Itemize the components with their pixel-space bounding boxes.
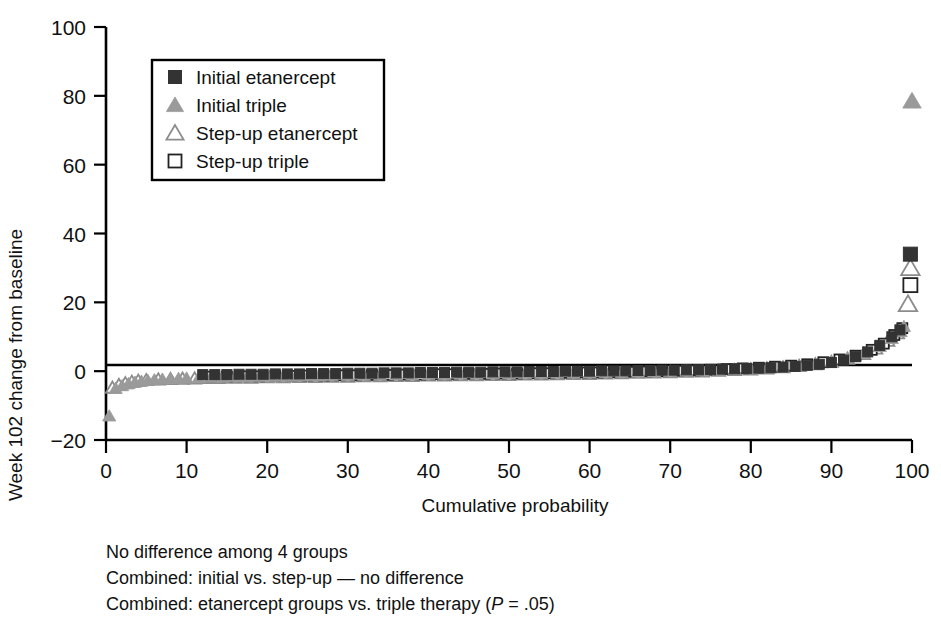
y-axis-title: Week 102 change from baseline: [5, 229, 26, 501]
legend-item-label: Initial etanercept: [196, 67, 336, 88]
marker-filled-square: [875, 340, 885, 350]
x-tick-label: 30: [336, 459, 359, 482]
marker-filled-square: [573, 366, 583, 376]
marker-filled-square: [343, 368, 353, 378]
marker-filled-square: [742, 363, 752, 373]
marker-filled-square: [730, 364, 740, 374]
marker-filled-square: [427, 368, 437, 378]
note-line-3: Combined: etanercept groups vs. triple t…: [106, 594, 555, 614]
marker-filled-square: [802, 360, 812, 370]
marker-filled-square: [258, 369, 268, 379]
y-tick-label: 100: [51, 16, 86, 39]
marker-filled-square: [826, 358, 836, 368]
x-tick-label: 0: [100, 459, 112, 482]
marker-filled-square: [524, 367, 534, 377]
marker-filled-square: [597, 366, 607, 376]
marker-filled-square: [391, 368, 401, 378]
legend-item-label: Step-up triple: [196, 151, 309, 172]
chart-canvas: Week 102 change from baseline −200204060…: [0, 0, 941, 622]
marker-filled-square: [585, 366, 595, 376]
y-tick-label: 60: [63, 154, 86, 177]
y-axis-ticks: −20020406080100: [50, 16, 106, 452]
notes-block: No difference among 4 groups Combined: i…: [106, 542, 555, 614]
marker-filled-square: [270, 369, 280, 379]
marker-filled-square: [814, 359, 824, 369]
marker-filled-square: [512, 367, 522, 377]
y-tick-label: 20: [63, 291, 86, 314]
marker-filled-square: [657, 365, 667, 375]
marker-filled-square: [693, 365, 703, 375]
marker-filled-square: [246, 369, 256, 379]
marker-filled-square: [645, 365, 655, 375]
marker-filled-square: [718, 364, 728, 374]
marker-filled-square: [367, 368, 377, 378]
marker-filled-square: [560, 366, 570, 376]
marker-filled-square: [355, 368, 365, 378]
x-axis-ticks: 0102030405060708090100: [100, 440, 929, 482]
marker-filled-square: [234, 369, 244, 379]
note-line-3-italic: P: [491, 594, 503, 614]
marker-filled-square: [609, 366, 619, 376]
marker-filled-square: [863, 347, 873, 357]
marker-filled-square: [903, 247, 917, 261]
marker-filled-square: [851, 352, 861, 362]
marker-open-square: [903, 278, 917, 292]
marker-filled-square: [403, 368, 413, 378]
legend-item-label: Step-up etanercept: [196, 123, 358, 144]
y-tick-label: −20: [50, 429, 86, 452]
x-tick-label: 60: [578, 459, 601, 482]
x-axis-title: Cumulative probability: [422, 495, 609, 516]
marker-filled-square: [452, 367, 462, 377]
note-line-1: No difference among 4 groups: [106, 542, 348, 562]
legend: Initial etanerceptInitial tripleStep-up …: [152, 60, 384, 180]
x-tick-label: 70: [659, 459, 682, 482]
y-tick-label: 0: [74, 360, 86, 383]
marker-filled-square: [331, 369, 341, 379]
x-tick-label: 80: [739, 459, 762, 482]
legend-item-2[interactable]: Step-up etanercept: [166, 123, 358, 144]
marker-filled-square: [838, 355, 848, 365]
marker-filled-square: [476, 367, 486, 377]
marker-filled-square: [895, 325, 905, 335]
x-tick-label: 20: [256, 459, 279, 482]
marker-filled-square: [488, 367, 498, 377]
marker-filled-square: [198, 370, 208, 380]
marker-filled-square: [379, 368, 389, 378]
marker-filled-square: [681, 365, 691, 375]
marker-filled-square: [282, 369, 292, 379]
x-tick-label: 40: [417, 459, 440, 482]
x-tick-label: 90: [820, 459, 843, 482]
y-tick-label: 80: [63, 85, 86, 108]
marker-filled-square: [754, 363, 764, 373]
x-tick-label: 100: [894, 459, 929, 482]
marker-filled-square: [294, 369, 304, 379]
marker-open-triangle: [899, 295, 917, 311]
legend-item-label: Initial triple: [196, 95, 287, 116]
marker-filled-triangle: [903, 92, 921, 108]
marker-filled-square: [464, 367, 474, 377]
marker-filled-square: [500, 367, 510, 377]
marker-filled-square: [307, 369, 317, 379]
y-tick-label: 40: [63, 223, 86, 246]
marker-filled-square: [169, 71, 182, 84]
marker-filled-square: [778, 362, 788, 372]
marker-filled-square: [706, 364, 716, 374]
marker-filled-square: [440, 368, 450, 378]
marker-filled-square: [633, 365, 643, 375]
note-line-3-pre: Combined: etanercept groups vs. triple t…: [106, 594, 491, 614]
marker-filled-triangle: [103, 410, 116, 421]
marker-filled-square: [319, 369, 329, 379]
marker-filled-square: [669, 365, 679, 375]
marker-filled-square: [790, 361, 800, 371]
marker-filled-square: [222, 370, 232, 380]
note-line-3-post: = .05): [503, 594, 555, 614]
figure-container: Week 102 change from baseline −200204060…: [0, 0, 941, 622]
marker-filled-square: [210, 370, 220, 380]
x-tick-label: 10: [175, 459, 198, 482]
marker-filled-square: [766, 363, 776, 373]
note-line-2: Combined: initial vs. step-up — no diffe…: [106, 568, 464, 588]
marker-filled-square: [415, 368, 425, 378]
x-tick-label: 50: [497, 459, 520, 482]
marker-open-square: [169, 155, 182, 168]
marker-filled-square: [548, 367, 558, 377]
